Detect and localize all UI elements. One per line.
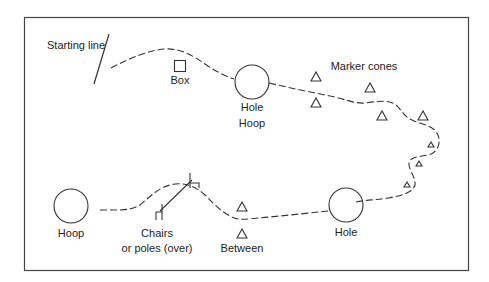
between-cones — [237, 202, 247, 238]
chairs-poles-icon — [156, 173, 199, 220]
cone-icon — [311, 98, 321, 107]
cone-icon — [237, 229, 247, 238]
cone-icon — [418, 111, 428, 120]
label-hole-hoop-line2: Hoop — [239, 116, 265, 131]
label-box: Box — [171, 73, 190, 88]
hole-hoop-circle — [235, 65, 269, 99]
cone-icon — [416, 161, 422, 166]
hoop-circle — [54, 189, 88, 223]
label-hole: Hole — [335, 225, 358, 240]
diagram-frame — [25, 18, 469, 271]
marker-cones — [311, 72, 434, 187]
course-path-bottom — [97, 184, 328, 219]
label-hole-hoop-line1: Hole — [241, 100, 264, 115]
label-between: Between — [221, 241, 264, 256]
course-diagram: Starting line Box Hole Hoop Marker cones… — [0, 0, 489, 282]
label-chairs-line1: Chairs — [141, 226, 173, 241]
hole-circle — [329, 188, 363, 222]
course-path-right — [269, 83, 439, 202]
cone-icon — [237, 202, 247, 211]
label-chairs-line2: or poles (over) — [122, 241, 193, 256]
cone-icon — [311, 72, 321, 81]
cone-icon — [404, 182, 410, 187]
cone-icon — [428, 142, 434, 147]
label-starting-line: Starting line — [47, 38, 105, 53]
cone-icon — [377, 111, 387, 120]
label-hoop: Hoop — [58, 226, 84, 241]
label-marker-cones: Marker cones — [331, 59, 398, 74]
box-icon — [175, 61, 186, 72]
cone-icon — [365, 83, 375, 92]
